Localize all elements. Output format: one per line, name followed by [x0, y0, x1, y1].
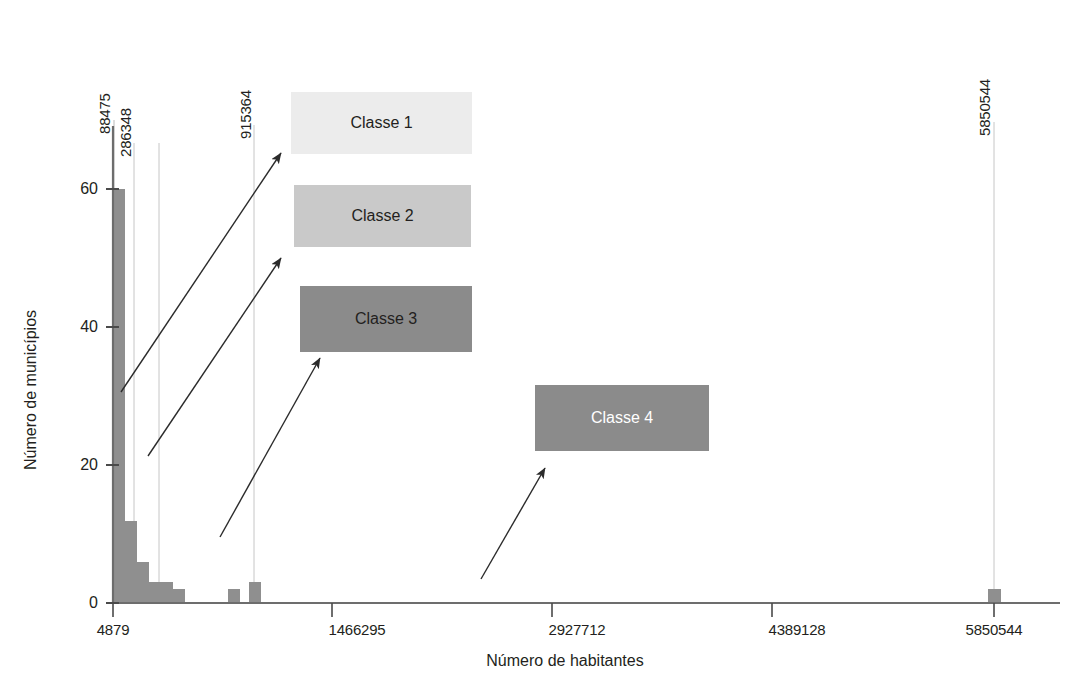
bar: [113, 189, 125, 603]
bar: [228, 589, 240, 603]
x-axis-title: Número de habitantes: [486, 652, 643, 670]
legend-label-classe-2: Classe 2: [351, 207, 413, 225]
y-tick-label-40: 40: [44, 318, 98, 336]
legend-box-classe-4[interactable]: Classe 4: [535, 385, 709, 451]
guide-label-915364: 915364: [237, 90, 254, 139]
legend-label-classe-3: Classe 3: [355, 310, 417, 328]
legend-box-classe-3[interactable]: Classe 3: [300, 286, 472, 352]
arrow-to-classe3: [220, 358, 320, 537]
arrow-to-classe2: [148, 258, 281, 456]
legend-box-classe-1[interactable]: Classe 1: [291, 92, 472, 154]
x-tick-label-4389128: 4389128: [769, 621, 826, 638]
y-tick-label-60: 60: [44, 180, 98, 198]
legend-box-classe-2[interactable]: Classe 2: [294, 185, 471, 247]
x-tick-label-5850544: 5850544: [966, 621, 1023, 638]
x-tick-label-1466295: 1466295: [329, 621, 386, 638]
guide-label-286348: 286348: [117, 108, 134, 157]
bar: [988, 589, 1001, 603]
y-tick-label-0: 0: [44, 594, 98, 612]
guide-label-88475: 88475: [96, 93, 113, 134]
x-tick-label-4879: 4879: [97, 621, 130, 638]
bar: [173, 589, 185, 603]
guide-label-5850544: 5850544: [976, 79, 993, 136]
y-axis-title: Número de municípios: [22, 310, 40, 470]
bar: [125, 521, 137, 603]
legend-label-classe-1: Classe 1: [350, 114, 412, 132]
bar: [149, 582, 161, 603]
bar: [137, 562, 149, 603]
bar: [249, 582, 261, 603]
y-tick-label-20: 20: [44, 456, 98, 474]
x-tick-label-2927712: 2927712: [549, 621, 606, 638]
x-axis-ticks: [113, 603, 994, 617]
arrow-to-classe4: [481, 468, 545, 579]
histogram-figure: 88475 286348 915364 5850544 0 20 40 60 4…: [0, 0, 1085, 692]
guide-lines: [114, 120, 994, 602]
plot-canvas: [0, 0, 1085, 692]
legend-label-classe-4: Classe 4: [591, 409, 653, 427]
arrow-to-classe1: [121, 153, 281, 392]
bar: [161, 582, 173, 603]
